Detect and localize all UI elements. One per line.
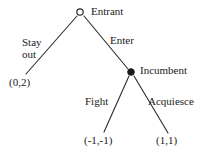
game-tree-diagram: Entrant Incumbent Stay out Enter Fight A… [0, 0, 205, 152]
edge-label-acquiesce: Acquiesce [148, 96, 194, 107]
payoff-stay-out: (0,2) [9, 77, 30, 88]
edge-label-fight: Fight [85, 96, 108, 107]
node-label-entrant: Entrant [91, 6, 123, 17]
payoff-acquiesce: (1,1) [156, 135, 177, 146]
edge-label-stay-out-line2: out [22, 49, 36, 60]
edge-label-enter: Enter [110, 35, 134, 46]
node-entrant-hollow-circle [77, 9, 83, 15]
edge-label-stay-out-line1: Stay [22, 37, 42, 48]
payoff-fight: (-1,-1) [84, 135, 112, 146]
node-label-incumbent: Incumbent [140, 65, 187, 76]
tree-edges-and-nodes [0, 0, 205, 152]
node-incumbent-filled-circle [128, 69, 135, 76]
